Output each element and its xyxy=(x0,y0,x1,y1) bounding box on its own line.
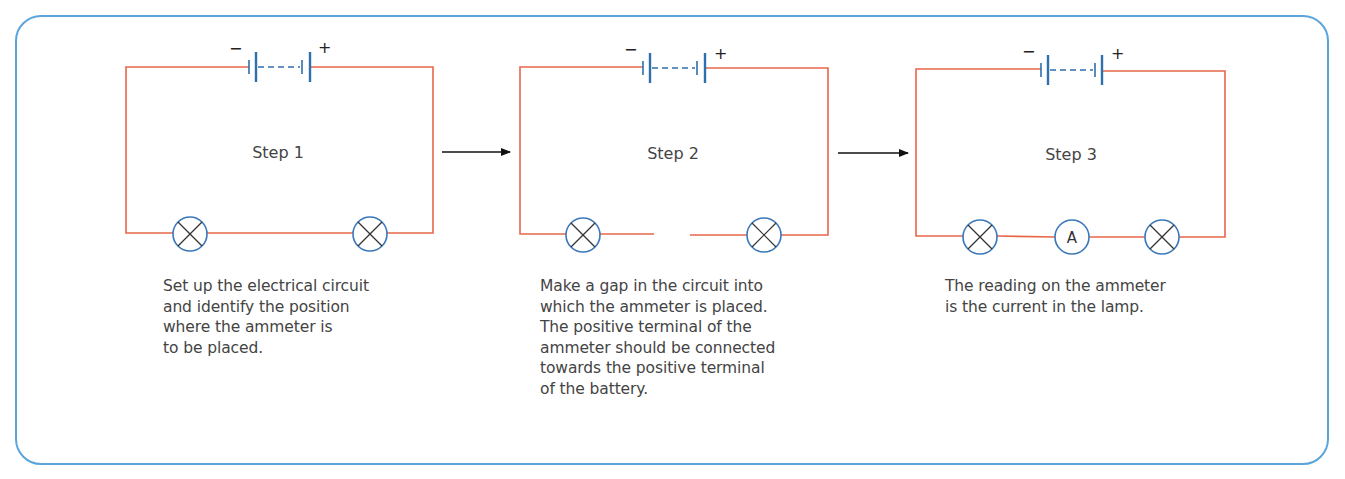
negative-terminal-sign: − xyxy=(1022,42,1035,61)
positive-terminal-sign: + xyxy=(714,44,727,63)
battery-icon xyxy=(1041,55,1102,85)
ammeter-symbol: A xyxy=(1067,229,1078,247)
positive-terminal-sign: + xyxy=(1111,44,1124,63)
lamp-icon xyxy=(963,220,997,254)
negative-terminal-sign: − xyxy=(229,39,242,58)
wire xyxy=(997,236,1055,237)
lamp-icon xyxy=(353,217,387,251)
step-2-label: Step 2 xyxy=(647,144,699,163)
lamp-icon xyxy=(1145,220,1179,254)
battery-icon xyxy=(249,52,310,82)
step-2-circuit: − + Step 2 xyxy=(520,40,828,252)
ammeter-icon: A xyxy=(1055,220,1089,254)
negative-terminal-sign: − xyxy=(624,40,637,59)
battery-icon xyxy=(643,53,705,83)
circuit-diagram: − + Step 1 − + xyxy=(0,0,1345,479)
step-3-label: Step 3 xyxy=(1045,145,1097,164)
wire xyxy=(916,69,1041,236)
step-2-caption: Make a gap in the circuit into which the… xyxy=(540,276,775,399)
step-1-label: Step 1 xyxy=(252,143,304,162)
wire xyxy=(520,67,643,234)
wire xyxy=(1102,71,1225,237)
lamp-icon xyxy=(747,218,781,252)
lamp-icon xyxy=(173,217,207,251)
step-3-caption: The reading on the ammeter is the curren… xyxy=(945,276,1166,317)
positive-terminal-sign: + xyxy=(318,38,331,57)
lamp-icon xyxy=(566,218,600,252)
step-1-circuit: − + Step 1 xyxy=(126,38,433,251)
wire xyxy=(705,68,828,235)
wire xyxy=(310,67,433,233)
step-1-caption: Set up the electrical circuit and identi… xyxy=(163,276,369,358)
step-3-circuit: − + A Step 3 xyxy=(916,42,1225,254)
wire xyxy=(126,67,249,233)
